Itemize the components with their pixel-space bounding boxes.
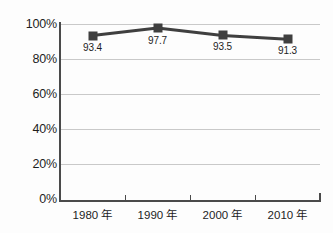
x-tick-label-2010: 2010 年 <box>257 206 318 222</box>
x-tick-label-2000: 2000 年 <box>192 206 253 222</box>
gridline-60 <box>60 94 320 95</box>
y-axis-labels: 100% 80% 60% 40% 20% 0% <box>0 0 57 233</box>
x-tick-label-1990: 1990 年 <box>127 206 188 222</box>
data-label: 97.7 <box>148 35 167 46</box>
line-chart: 100% 80% 60% 40% 20% 0% 93.4 97.7 93.5 9… <box>0 0 333 233</box>
y-tick-label-40: 40% <box>1 122 57 136</box>
x-tick-3 <box>255 195 256 202</box>
data-point-marker <box>88 31 97 40</box>
data-label: 91.3 <box>278 45 297 56</box>
x-tick-label-1980: 1980 年 <box>62 206 123 222</box>
gridline-40 <box>60 129 320 130</box>
y-tick-label-80: 80% <box>1 52 57 66</box>
x-tick-end <box>319 193 321 202</box>
y-tick-label-60: 60% <box>1 87 57 101</box>
x-tick-2 <box>190 195 191 202</box>
gridline-20 <box>60 164 320 165</box>
y-axis-line <box>59 22 61 202</box>
y-tick-label-0: 0% <box>1 192 57 206</box>
data-point-marker <box>283 35 292 44</box>
data-point-marker <box>153 24 162 33</box>
data-point-marker <box>218 31 227 40</box>
y-tick-label-20: 20% <box>1 157 57 171</box>
data-label: 93.4 <box>83 42 102 53</box>
gridline-100 <box>60 24 320 25</box>
gridline-80 <box>60 59 320 60</box>
y-tick-label-100: 100% <box>1 17 57 31</box>
x-tick-1 <box>125 195 126 202</box>
data-label: 93.5 <box>213 41 232 52</box>
